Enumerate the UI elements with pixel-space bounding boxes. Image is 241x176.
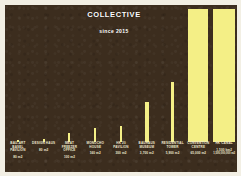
axis-label-value: 3,700 m2 — [135, 152, 159, 156]
axis-label-value: 5,900 m2 — [161, 152, 185, 156]
axis-label: CONVENTION CENTRE65,000 m2 — [185, 142, 211, 170]
axis-label: MEAT FREEZER OFFICE100 m2 — [57, 142, 83, 170]
axis-label: BAUHAUS MUSEUM3,700 m2 — [134, 142, 160, 170]
axis-label-strip: BAU-ART BASEL PAVILION80 m2DESIGN HAUS80… — [5, 142, 237, 170]
axis-label-name: CONVENTION CENTRE — [186, 142, 210, 149]
axis-label-value: 300 m2 — [109, 152, 133, 156]
chart-subtitle: since 2015 — [99, 28, 128, 34]
page-title: COLLECTIVE — [5, 10, 223, 19]
axis-label-value: 100 m2 — [58, 156, 82, 160]
axis-label: HK CANAL1,500 km21,500,000,000 m2 — [211, 142, 237, 170]
axis-label: HK 20 PAVILION300 m2 — [108, 142, 134, 170]
axis-label-value: 80 m2 — [32, 149, 56, 153]
bar — [145, 102, 149, 142]
axis-label: MONOCHO HOUSE160 m2 — [82, 142, 108, 170]
axis-label-value-secondary: 1,500,000,000 m2 — [212, 152, 236, 155]
axis-label-name: BAU-ART BASEL PAVILION — [6, 142, 30, 153]
axis-label-name: HK CANAL — [212, 142, 236, 146]
axis-label-value: 80 m2 — [6, 156, 30, 160]
axis-label-name: MONOCHO HOUSE — [83, 142, 107, 149]
poster-frame: COLLECTIVE since 2015 BAU-ART BASEL PAVI… — [0, 0, 241, 176]
bar — [171, 82, 174, 142]
axis-label-name: BAUHAUS MUSEUM — [135, 142, 159, 149]
axis-label-value: 65,000 m2 — [186, 152, 210, 156]
axis-label: RESIDENTIAL TOWER5,900 m2 — [160, 142, 186, 170]
chart-panel: COLLECTIVE since 2015 BAU-ART BASEL PAVI… — [5, 5, 237, 172]
bar — [120, 126, 122, 142]
axis-label: DESIGN HAUS80 m2 — [31, 142, 57, 170]
axis-label-value: 160 m2 — [83, 152, 107, 156]
axis-label-name: DESIGN HAUS — [32, 142, 56, 146]
axis-label-name: MEAT FREEZER OFFICE — [58, 142, 82, 153]
bar — [94, 128, 96, 142]
axis-label-name: RESIDENTIAL TOWER — [161, 142, 185, 149]
axis-label: BAU-ART BASEL PAVILION80 m2 — [5, 142, 31, 170]
title-block: COLLECTIVE since 2015 — [5, 10, 223, 37]
axis-label-name: HK 20 PAVILION — [109, 142, 133, 149]
